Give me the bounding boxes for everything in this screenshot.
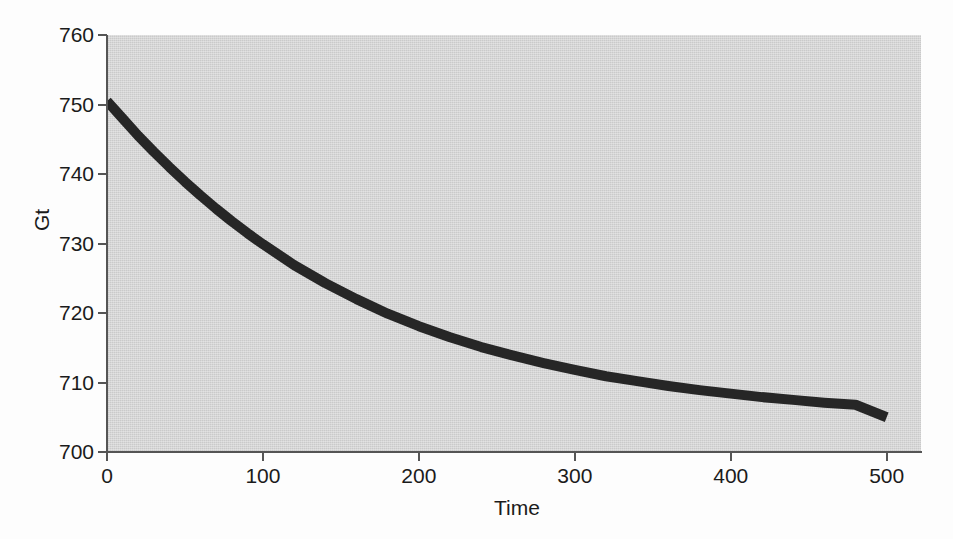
x-axis-tick [886, 452, 888, 461]
x-axis-tick-label: 200 [379, 464, 459, 488]
y-axis-tick [98, 312, 107, 314]
x-axis-tick-label: 100 [223, 464, 303, 488]
x-axis-tick-label: 0 [67, 464, 147, 488]
x-axis-tick [418, 452, 420, 461]
x-axis-tick [730, 452, 732, 461]
y-axis-tick-label: 750 [2, 94, 94, 115]
y-axis-tick-label: 740 [2, 163, 94, 184]
x-axis-title: Time [407, 496, 627, 520]
y-axis-tick-label: 700 [2, 441, 94, 462]
y-axis-tick-label: 720 [2, 302, 94, 323]
x-axis-tick-label: 500 [847, 464, 927, 488]
x-axis-line [106, 451, 922, 453]
y-axis-tick [98, 104, 107, 106]
y-axis-tick [98, 382, 107, 384]
y-axis-tick [98, 173, 107, 175]
y-axis-tick-label: 760 [2, 24, 94, 45]
x-axis-tick [262, 452, 264, 461]
y-axis-title: Gt [30, 190, 54, 250]
x-axis-tick-label: 400 [691, 464, 771, 488]
y-axis-tick-label: 710 [2, 372, 94, 393]
plot-svg [107, 35, 921, 452]
data-series-line [107, 101, 887, 417]
plot-area [107, 35, 921, 452]
x-axis-tick [106, 452, 108, 461]
chart-figure: 700710720730740750760 0100200300400500 T… [0, 0, 953, 539]
y-axis-tick [98, 243, 107, 245]
x-axis-tick [574, 452, 576, 461]
y-axis-tick [98, 34, 107, 36]
x-axis-tick-label: 300 [535, 464, 615, 488]
